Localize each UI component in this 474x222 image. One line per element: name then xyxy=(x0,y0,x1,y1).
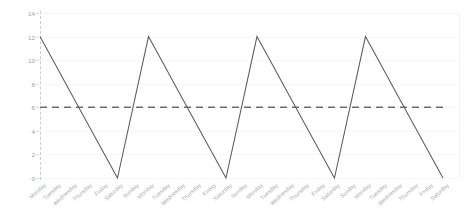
y-tick-mark xyxy=(36,37,39,38)
line-chart: 02468101214 MondayTuesdayWednesdayThursd… xyxy=(0,0,474,222)
y-tick-mark xyxy=(36,154,39,155)
y-tick-mark xyxy=(36,60,39,61)
y-tick-mark xyxy=(36,13,39,14)
y-tick-mark xyxy=(36,84,39,85)
y-tick-mark xyxy=(36,107,39,108)
y-tick-mark xyxy=(36,178,39,179)
y-tick-mark xyxy=(36,131,39,132)
series-layer xyxy=(0,0,474,222)
